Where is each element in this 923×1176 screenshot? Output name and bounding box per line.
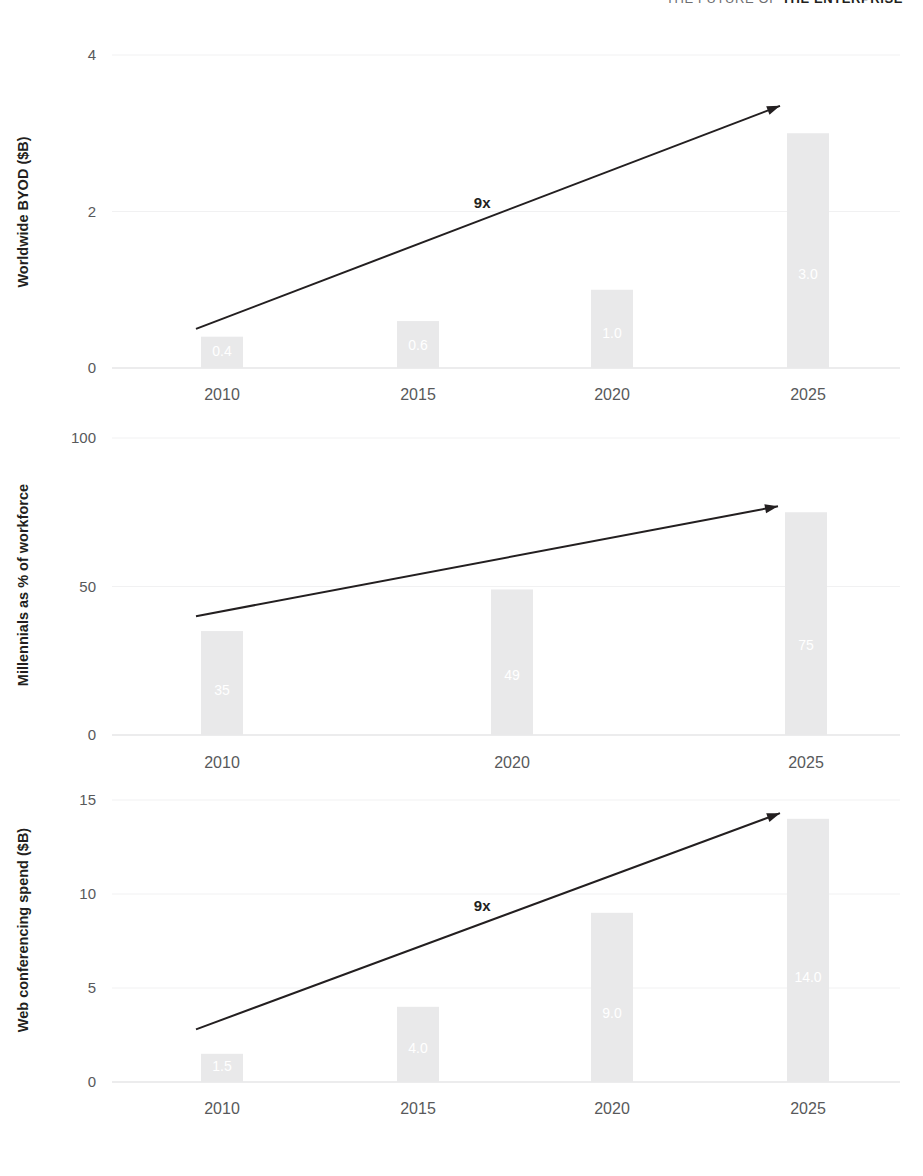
trend-arrow-line: [196, 506, 778, 616]
y-axis-tick-label: 0: [88, 1073, 96, 1090]
chart-canvas-millennials: 050100354975201020202025Millennials as %…: [0, 420, 923, 780]
bar-value-label: 0.6: [408, 337, 428, 353]
bar-value-label: 14.0: [794, 969, 821, 985]
y-axis-tick-label: 4: [88, 46, 96, 63]
chart-canvas-webconf: 0510151.54.09.014.02010201520202025Web c…: [0, 780, 923, 1176]
bar-value-label: 9.0: [602, 1005, 622, 1021]
bar: [785, 512, 827, 735]
bar-value-label: 49: [504, 667, 520, 683]
y-axis-tick-label: 15: [79, 791, 96, 808]
trend-arrowhead: [766, 813, 780, 822]
x-axis-tick-label: 2010: [204, 754, 240, 771]
growth-multiplier-annotation: 9x: [474, 897, 491, 914]
trend-arrowhead: [764, 504, 778, 513]
y-axis-title: Web conferencing spend ($B): [15, 828, 31, 1033]
bar: [491, 589, 533, 735]
x-axis-tick-label: 2025: [790, 1100, 826, 1117]
bar-value-label: 1.0: [602, 325, 622, 341]
x-axis-tick-label: 2015: [400, 386, 436, 403]
header-prefix: THE FUTURE OF: [666, 0, 782, 6]
bar: [787, 819, 829, 1082]
bar-value-label: 35: [214, 682, 230, 698]
x-axis-tick-label: 2010: [204, 386, 240, 403]
infographic-page: THE FUTURE OF THE ENTERPRISE 0240.40.61.…: [0, 0, 923, 1176]
chart-web-conferencing-spend: 0510151.54.09.014.02010201520202025Web c…: [0, 780, 923, 1176]
bar-value-label: 4.0: [408, 1040, 428, 1056]
x-axis-tick-label: 2020: [594, 1100, 630, 1117]
y-axis-tick-label: 0: [88, 726, 96, 743]
y-axis-title: Millennials as % of workforce: [15, 484, 31, 686]
x-axis-tick-label: 2020: [594, 386, 630, 403]
bar-value-label: 3.0: [798, 266, 818, 282]
bar-value-label: 0.4: [212, 343, 232, 359]
x-axis-tick-label: 2015: [400, 1100, 436, 1117]
y-axis-title: Worldwide BYOD ($B): [15, 136, 31, 287]
growth-multiplier-annotation: 9x: [474, 194, 491, 211]
y-axis-tick-label: 5: [88, 979, 96, 996]
x-axis-tick-label: 2025: [790, 386, 826, 403]
header-emphasis: THE ENTERPRISE: [782, 0, 903, 6]
y-axis-tick-label: 100: [71, 429, 96, 446]
x-axis-tick-label: 2010: [204, 1100, 240, 1117]
y-axis-tick-label: 0: [88, 359, 96, 376]
trend-arrow-line: [196, 813, 780, 1029]
bar-value-label: 75: [798, 637, 814, 653]
x-axis-tick-label: 2025: [788, 754, 824, 771]
trend-arrow-line: [196, 106, 780, 329]
y-axis-tick-label: 10: [79, 885, 96, 902]
y-axis-tick-label: 50: [79, 578, 96, 595]
bar: [787, 133, 829, 368]
bar: [591, 913, 633, 1082]
chart-worldwide-byod: 0240.40.61.03.02010201520202025Worldwide…: [0, 30, 923, 420]
page-header: THE FUTURE OF THE ENTERPRISE: [0, 0, 923, 9]
chart-millennials-workforce: 050100354975201020202025Millennials as %…: [0, 420, 923, 780]
chart-canvas-byod: 0240.40.61.03.02010201520202025Worldwide…: [0, 30, 923, 420]
bar-value-label: 1.5: [212, 1058, 232, 1074]
trend-arrowhead: [766, 106, 780, 115]
x-axis-tick-label: 2020: [494, 754, 530, 771]
y-axis-tick-label: 2: [88, 203, 96, 220]
